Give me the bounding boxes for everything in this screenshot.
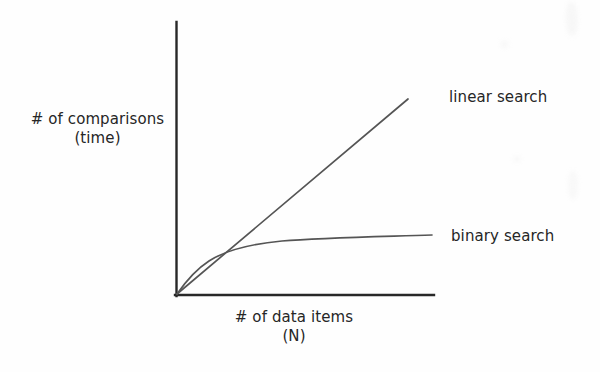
- x-axis-label: # of data items (N): [218, 308, 370, 346]
- x-axis-label-line1: # of data items: [218, 308, 370, 327]
- x-axis-label-line2: (N): [218, 327, 370, 346]
- y-axis-label: # of comparisons (time): [20, 110, 175, 148]
- figure-canvas: # of comparisons (time) # of data items …: [0, 0, 600, 372]
- linear-search-label: linear search: [449, 88, 547, 107]
- y-axis-label-line2: (time): [20, 129, 175, 148]
- binary-search-curve: [177, 235, 432, 294]
- binary-search-label: binary search: [451, 227, 554, 246]
- y-axis-label-line1: # of comparisons: [20, 110, 175, 129]
- linear-search-curve: [177, 99, 408, 294]
